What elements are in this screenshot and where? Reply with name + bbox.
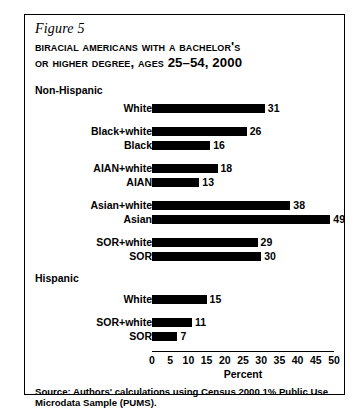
x-tick-label: 10 xyxy=(183,354,195,366)
bar-category-label: Black+white xyxy=(32,126,152,137)
bar-row: AIAN+white18 xyxy=(25,163,346,174)
bar xyxy=(152,127,247,136)
bar-row: AIAN13 xyxy=(25,177,346,188)
figure-panel: Figure 5 Biracial Americans With a Bache… xyxy=(24,14,345,395)
x-tick-label: 40 xyxy=(292,354,304,366)
x-tick-label: 20 xyxy=(219,354,231,366)
bar-track: 26 xyxy=(152,127,346,136)
bar-row: White15 xyxy=(25,294,346,305)
bar-track: 29 xyxy=(152,238,346,247)
bar-value-label: 31 xyxy=(268,103,280,114)
bar-value-label: 15 xyxy=(210,294,222,305)
x-tick-label: 35 xyxy=(274,354,286,366)
x-tick-label: 0 xyxy=(149,354,155,366)
bar xyxy=(152,164,218,173)
bar-category-label: White xyxy=(32,103,152,114)
bar-value-label: 18 xyxy=(221,163,233,174)
x-axis-tick-labels: 05101520253035404550 xyxy=(152,354,334,366)
bar xyxy=(152,318,192,327)
bar-category-label: AIAN+white xyxy=(32,163,152,174)
bar xyxy=(152,201,290,210)
bar xyxy=(152,215,330,224)
bar-track: 11 xyxy=(152,318,346,327)
bar-track: 38 xyxy=(152,201,346,210)
bar-row: SOR7 xyxy=(25,331,346,342)
bar xyxy=(152,295,207,304)
bar-value-label: 30 xyxy=(264,251,276,262)
bar-value-label: 26 xyxy=(250,126,262,137)
x-tick-label: 5 xyxy=(167,354,173,366)
bar-value-label: 38 xyxy=(293,200,305,211)
x-tick-label: 50 xyxy=(328,354,340,366)
x-tick-label: 45 xyxy=(310,354,322,366)
bar-row: Black+white26 xyxy=(25,126,346,137)
bar-category-label: SOR+white xyxy=(32,237,152,248)
bar-track: 13 xyxy=(152,178,346,187)
bar-row: Black16 xyxy=(25,140,346,151)
bar-value-label: 16 xyxy=(213,140,225,151)
bar xyxy=(152,332,177,341)
bar-row: SOR30 xyxy=(25,251,346,262)
bar-category-label: Black xyxy=(32,140,152,151)
bar xyxy=(152,252,261,261)
bar-track: 49 xyxy=(152,215,346,224)
bar-category-label: Asian xyxy=(32,214,152,225)
bar-value-label: 7 xyxy=(180,331,186,342)
bar-track: 30 xyxy=(152,252,346,261)
bar-category-label: SOR+white xyxy=(32,317,152,328)
bar-value-label: 13 xyxy=(202,177,214,188)
bar-value-label: 29 xyxy=(261,237,273,248)
source-note: Source: Authors' calculations using Cens… xyxy=(35,386,335,408)
bar-category-label: SOR xyxy=(32,331,152,342)
bar xyxy=(152,141,210,150)
x-axis-title: Percent xyxy=(152,368,334,380)
bar xyxy=(152,238,258,247)
bar-track: 18 xyxy=(152,164,346,173)
bar-row: Asian+white38 xyxy=(25,200,346,211)
bar-category-label: White xyxy=(32,294,152,305)
bar-row: White31 xyxy=(25,103,346,114)
bar-chart-plot-area: White31Black+white26Black16AIAN+white18A… xyxy=(25,15,346,396)
bar-row: Asian49 xyxy=(25,214,346,225)
bar-track: 7 xyxy=(152,332,346,341)
figure-inner: Figure 5 Biracial Americans With a Bache… xyxy=(25,15,344,394)
bar-row: SOR+white29 xyxy=(25,237,346,248)
bar-category-label: SOR xyxy=(32,251,152,262)
bar-track: 31 xyxy=(152,104,346,113)
bar xyxy=(152,104,265,113)
bar-value-label: 11 xyxy=(195,317,206,328)
x-axis-line xyxy=(152,351,334,352)
x-tick-label: 25 xyxy=(237,354,249,366)
bar-track: 15 xyxy=(152,295,346,304)
bar xyxy=(152,178,199,187)
bar-category-label: AIAN xyxy=(32,177,152,188)
bar-category-label: Asian+white xyxy=(32,200,152,211)
bar-track: 16 xyxy=(152,141,346,150)
bar-row: SOR+white11 xyxy=(25,317,346,328)
x-tick-label: 15 xyxy=(201,354,213,366)
bar-value-label: 49 xyxy=(333,214,345,225)
x-tick-label: 30 xyxy=(255,354,267,366)
